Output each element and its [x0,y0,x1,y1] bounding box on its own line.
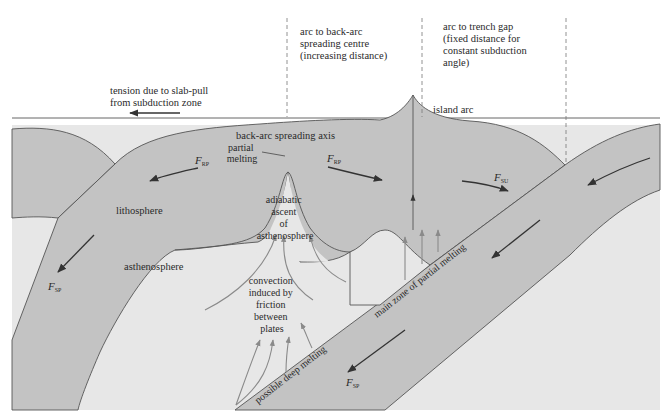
island-arc-label: island arc [433,104,474,115]
lithosphere-label: lithosphere [116,205,163,216]
spreading-axis-label: back-arc spreading axis [236,130,335,141]
back-arc-spreading-diagram: tension due to slab-pull from subduction… [0,0,672,416]
asthenosphere-label: asthenosphere [124,261,184,272]
arc-to-trench-label: arc to trench gap (fixed distance for co… [443,21,529,69]
tension-label: tension due to slab-pull from subduction… [110,85,211,108]
arc-to-backarc-label: arc to back-arc spreading centre (increa… [300,26,388,62]
partial-melting-label: partial melting [227,142,258,164]
